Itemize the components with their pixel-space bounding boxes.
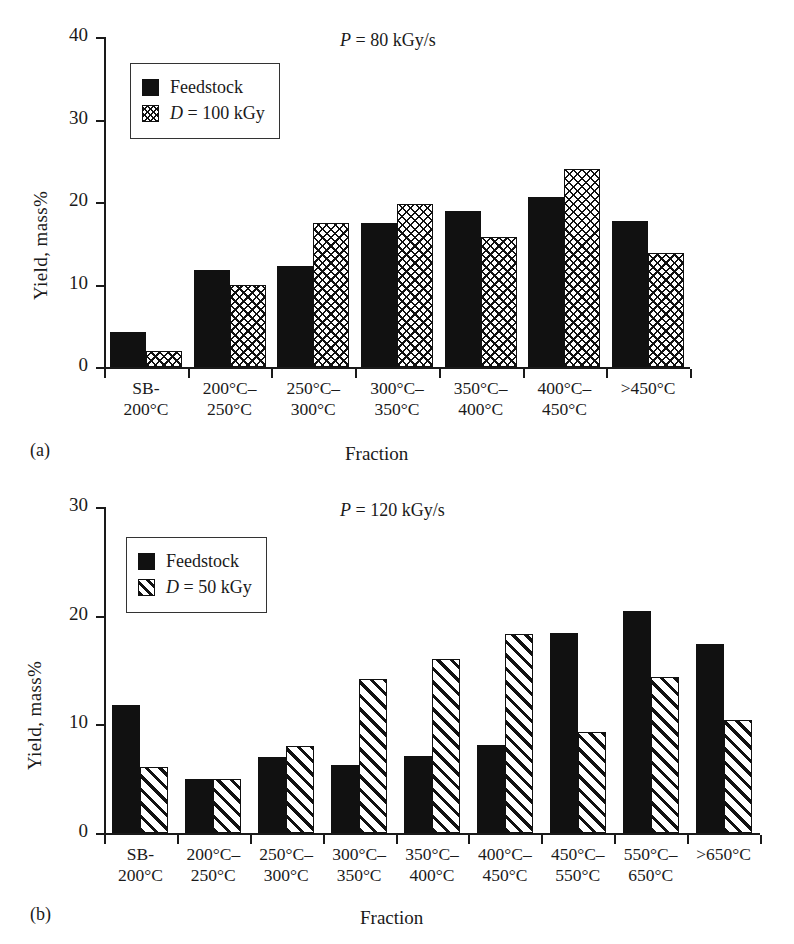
x-tick-mark <box>104 369 106 378</box>
bar <box>146 351 182 367</box>
y-tick-label-a-10: 10 <box>46 272 88 294</box>
x-category-line-1: 300°C– <box>355 378 439 399</box>
bar <box>648 253 684 367</box>
x-tick-mark <box>355 369 357 378</box>
x-category-line-2: 450°C <box>523 399 607 420</box>
x-category-line-2: 200°C <box>104 399 188 420</box>
bar <box>185 779 213 833</box>
x-category-line-1: 450°C– <box>541 844 614 865</box>
x-category-label: >450°C <box>606 378 690 399</box>
x-category-line-2: 550°C <box>541 865 614 886</box>
x-category-line-2: 250°C <box>177 865 250 886</box>
bar-group <box>355 37 439 367</box>
bar <box>528 197 564 367</box>
x-category-label: >650°C <box>687 844 760 865</box>
bar <box>230 285 266 367</box>
y-tick-label-b-20: 20 <box>46 603 88 625</box>
x-tick-mark <box>323 835 325 844</box>
plot-area-a <box>104 37 690 367</box>
bar-group <box>177 507 250 833</box>
bar-group <box>396 507 469 833</box>
x-category-label: 300°C–350°C <box>323 844 396 887</box>
bar <box>550 633 578 833</box>
x-category-line-1: SB- <box>104 844 177 865</box>
x-category-line-2: 450°C <box>468 865 541 886</box>
x-category-label: 300°C–350°C <box>355 378 439 421</box>
x-tick-mark <box>396 835 398 844</box>
bar <box>359 679 387 833</box>
y-tick-label-a-20: 20 <box>46 189 88 211</box>
x-tick-mark <box>104 835 106 844</box>
x-category-line-1: SB- <box>104 378 188 399</box>
x-axis-title-b: Fraction <box>360 907 423 929</box>
x-category-line-2: 400°C <box>396 865 469 886</box>
x-axis-title-a: Fraction <box>345 443 408 465</box>
x-category-line-2: 250°C <box>188 399 272 420</box>
x-category-label: 350°C–400°C <box>439 378 523 421</box>
y-axis-label-b: Yield, mass% <box>24 661 46 770</box>
x-tick-mark <box>523 369 525 378</box>
x-tick-mark <box>606 369 608 378</box>
bar-group <box>523 37 607 367</box>
bar-group <box>250 507 323 833</box>
bar-group <box>323 507 396 833</box>
x-tick-mark <box>468 835 470 844</box>
x-category-line-2: 350°C <box>355 399 439 420</box>
bar <box>612 221 648 367</box>
x-category-label: 450°C–550°C <box>541 844 614 887</box>
x-tick-mark <box>541 835 543 844</box>
x-category-label: 400°C–450°C <box>468 844 541 887</box>
y-tick-label-a-0: 0 <box>46 354 88 376</box>
x-category-line-2: 350°C <box>323 865 396 886</box>
bar-group <box>687 507 760 833</box>
x-category-label: 250°C–300°C <box>250 844 323 887</box>
bar <box>696 644 724 833</box>
bar-group <box>614 507 687 833</box>
x-category-line-2: 400°C <box>439 399 523 420</box>
x-category-line-1: 200°C– <box>177 844 250 865</box>
panel-caption-a: (a) <box>30 440 50 461</box>
x-category-line-1: 200°C– <box>188 378 272 399</box>
x-tick-mark <box>271 369 273 378</box>
x-category-label: SB-200°C <box>104 844 177 887</box>
bar <box>445 211 481 367</box>
x-category-line-1: 550°C– <box>614 844 687 865</box>
x-tick-mark <box>177 835 179 844</box>
x-category-line-2: 300°C <box>250 865 323 886</box>
x-category-line-1: >450°C <box>606 378 690 399</box>
x-tick-mark <box>690 369 692 378</box>
bar <box>505 634 533 833</box>
x-category-label: SB-200°C <box>104 378 188 421</box>
bar <box>140 767 168 833</box>
bar-group <box>439 37 523 367</box>
bar <box>277 266 313 367</box>
x-category-line-1: 250°C– <box>250 844 323 865</box>
bar <box>481 237 517 367</box>
bar <box>432 659 460 833</box>
x-category-line-1: 350°C– <box>439 378 523 399</box>
x-tick-mark <box>760 835 762 844</box>
y-tick-label-a-40: 40 <box>46 24 88 46</box>
bar <box>331 765 359 833</box>
x-category-line-2: 650°C <box>614 865 687 886</box>
plot-area-b <box>104 507 760 833</box>
x-axis-line-b <box>104 833 760 835</box>
bar <box>578 732 606 833</box>
x-category-line-1: 300°C– <box>323 844 396 865</box>
x-tick-mark <box>188 369 190 378</box>
x-category-label: 200°C–250°C <box>177 844 250 887</box>
bar <box>313 223 349 367</box>
bar <box>397 204 433 367</box>
x-category-label: 350°C–400°C <box>396 844 469 887</box>
x-category-line-2: 300°C <box>271 399 355 420</box>
x-axis-line-a <box>104 367 690 369</box>
bar <box>404 756 432 833</box>
bar-group <box>271 37 355 367</box>
bar-group <box>188 37 272 367</box>
figure-two-panel-bar-charts: Yield, mass% P = 80 kGy/s Feedstock D = … <box>0 0 794 944</box>
panel-caption-b: (b) <box>30 904 51 925</box>
x-category-label: 400°C–450°C <box>523 378 607 421</box>
x-category-label: 550°C–650°C <box>614 844 687 887</box>
bar <box>194 270 230 367</box>
bar <box>564 169 600 367</box>
